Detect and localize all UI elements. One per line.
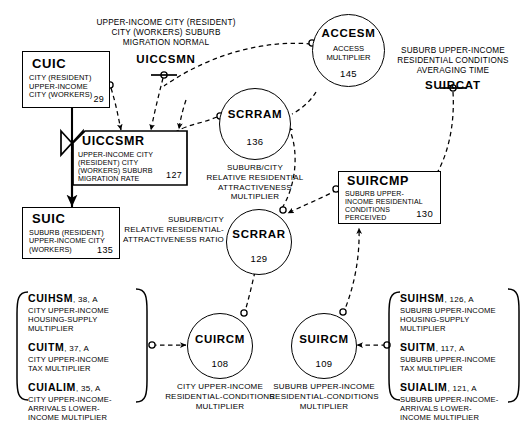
brace-item-suihsm-desc: SUBURB UPPER-INCOME HOUSING-SUPPLY MULTI… <box>400 306 516 333</box>
constant-uiccsmn-caption: UPPER-INCOME CITY (RESIDENT) CITY (WORKE… <box>96 18 236 48</box>
brace-item-suitm-meta: , 117, A <box>436 344 465 353</box>
link-accesm-to-scrram <box>292 92 316 114</box>
constant-suircat-caption: SUBURB UPPER-INCOME RESIDENTIAL CONDITIO… <box>383 46 523 76</box>
aux-cuircm-name: CUIRCM <box>188 334 252 346</box>
brace-item-cuialim-name: CUIALIM <box>28 381 76 393</box>
brace-item-cuialim[interactable]: CUIALIM, 35, A CITY UPPER-INCOME- ARRIVA… <box>28 382 140 422</box>
brace-item-suialim-meta: , 121, A <box>447 384 477 393</box>
brace-item-cuitm-meta: , 37, A <box>64 344 89 353</box>
brace-item-suihsm[interactable]: SUIHSM, 126, A SUBURB UPPER-INCOME HOUSI… <box>400 293 516 333</box>
brace-item-cuitm[interactable]: CUITM, 37, A CITY UPPER-INCOME TAX MULTI… <box>28 342 140 373</box>
aux-circle-scrrar[interactable]: SCRRAR 129 <box>226 209 292 275</box>
brace-item-cuialim-desc: CITY UPPER-INCOME- ARRIVALS LOWER- INCOM… <box>28 395 140 422</box>
level-suircmp-name: SUIRCMP <box>347 175 440 188</box>
aux-scrrar-name: SCRRAR <box>227 229 291 241</box>
brace-item-cuihsm-name: CUIHSM <box>28 292 73 304</box>
aux-circle-scrram[interactable]: SCRRAM 136 <box>219 88 291 160</box>
link-cuic-to-uiccsmr <box>111 88 121 130</box>
aux-suircm-name: SUIRCM <box>292 334 356 346</box>
link-suircm-to-suircmp <box>343 228 359 314</box>
brace-item-suialim-name: SUIALIM <box>400 381 447 393</box>
connector-dot-scrrar <box>280 207 286 213</box>
aux-circle-cuircm[interactable]: CUIRCM 108 <box>187 313 253 379</box>
brace-item-suialim-desc: SUBURB UPPER-INCOME- ARRIVALS LOWER- INC… <box>400 395 516 422</box>
constant-suircat-name: SUIRCAT <box>383 79 523 91</box>
rate-uiccsmr-name: UICCSMR <box>82 135 188 148</box>
aux-suircm-caption: SUBURB UPPER-INCOME RESIDENTIAL-CONDITIO… <box>259 382 389 411</box>
connector-dot-cuircm <box>241 310 247 316</box>
aux-scrram-caption: SUBURB/CITY RELATIVE RESIDENTIAL ATTRACT… <box>175 163 335 202</box>
brace-item-cuihsm[interactable]: CUIHSM, 38, A CITY UPPER-INCOME HOUSING-… <box>28 293 140 333</box>
link-scrram-to-uiccsmr <box>186 117 217 127</box>
aux-suircm-number: 109 <box>292 359 356 369</box>
brace-group-suburb-inputs: SUIHSM, 126, A SUBURB UPPER-INCOME HOUSI… <box>400 293 516 422</box>
aux-accesm-name: ACCESM <box>313 28 384 40</box>
level-suircmp-number: 130 <box>416 208 433 219</box>
brace-item-suitm-name: SUITM <box>400 341 436 353</box>
brace-item-suialim[interactable]: SUIALIM, 121, A SUBURB UPPER-INCOME- ARR… <box>400 382 516 422</box>
brace-group-city-inputs: CUIHSM, 38, A CITY UPPER-INCOME HOUSING-… <box>28 293 140 422</box>
brace-item-suihsm-name: SUIHSM <box>400 292 444 304</box>
level-suic-number: 135 <box>97 245 113 255</box>
link-uiccsmn-to-uiccsmr <box>151 78 163 130</box>
connector-dot-suburb-inputs <box>384 342 390 348</box>
connector-dot-city-inputs <box>149 342 155 348</box>
aux-accesm-inner: ACCESS MULTIPLIER <box>313 44 384 62</box>
aux-circle-suircm[interactable]: SUIRCM 109 <box>291 313 357 379</box>
brace-item-cuihsm-desc: CITY UPPER-INCOME HOUSING-SUPPLY MULTIPL… <box>28 306 140 333</box>
aux-scrram-number: 136 <box>220 137 290 147</box>
brace-item-cuitm-name: CUITM <box>28 341 64 353</box>
aux-scrram-name: SCRRAM <box>220 109 290 121</box>
aux-cuircm-number: 108 <box>188 359 252 369</box>
rate-box-uiccsmr[interactable]: UICCSMR UPPER-INCOME CITY (RESIDENT) CIT… <box>72 130 188 186</box>
brace-item-cuitm-desc: CITY UPPER-INCOME TAX MULTIPLIER <box>28 355 140 373</box>
brace-item-cuihsm-meta: , 38, A <box>73 295 98 304</box>
aux-scrrar-number: 129 <box>227 254 291 264</box>
level-box-suircmp[interactable]: SUIRCMP SUBURB UPPER- INCOME RESIDENTIAL… <box>338 171 441 224</box>
brace-item-suitm-desc: SUBURB UPPER-INCOME TAX MULTIPLIER <box>400 355 516 373</box>
connector-dot-uiccsmn <box>161 72 167 78</box>
constant-uiccsmn-name: UICCSMN <box>96 53 236 65</box>
brace-item-suihsm-meta: , 126, A <box>444 295 474 304</box>
level-cuic-name: CUIC <box>32 57 109 70</box>
aux-scrrar-caption: SUBURB/CITY RELATIVE RESIDENTIAL- ATTRAC… <box>112 215 224 244</box>
level-box-suic[interactable]: SUIC SUBURB (RESIDENT) UPPER-INCOME CITY… <box>22 207 120 259</box>
level-cuic-number: 29 <box>93 94 104 104</box>
link-incoming-uiccsmr-third <box>179 100 186 129</box>
brace-item-cuialim-meta: , 35, A <box>76 384 101 393</box>
aux-accesm-number: 145 <box>313 69 384 79</box>
connector-dot-suircm <box>340 309 346 315</box>
aux-circle-accesm[interactable]: ACCESM ACCESS MULTIPLIER 145 <box>312 14 385 87</box>
brace-item-suitm[interactable]: SUITM, 117, A SUBURB UPPER-INCOME TAX MU… <box>400 342 516 373</box>
level-box-cuic[interactable]: CUIC CITY (RESIDENT) UPPER-INCOME CITY (… <box>22 51 110 108</box>
level-suic-name: SUIC <box>32 212 119 225</box>
diagram-canvas: UPPER-INCOME CITY (RESIDENT) CITY (WORKE… <box>0 0 525 432</box>
